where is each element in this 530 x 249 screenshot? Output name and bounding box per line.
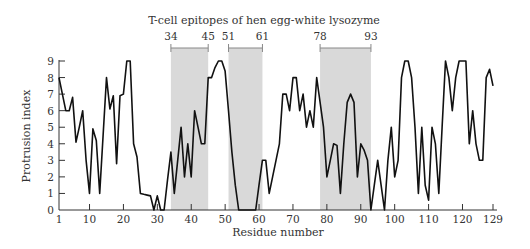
protrusion-line [59,61,493,210]
x-tick-label: 120 [452,213,472,225]
y-tick-label: 0 [47,204,54,216]
x-tick-label: 30 [151,213,164,225]
x-tick-label: 90 [354,213,367,225]
y-axis-title: Protrusion index [20,89,33,183]
epitope-region-51-61 [229,48,263,210]
y-tick-label: 6 [47,105,54,117]
x-tick-label: 40 [185,213,198,225]
x-tick-label: 60 [252,213,265,225]
x-tick-label: 100 [385,213,405,225]
x-tick-label: 70 [286,213,299,225]
y-tick-label: 7 [47,88,54,100]
x-tick-label: 10 [83,213,96,225]
chart-title: T-cell epitopes of hen egg-white lysozym… [148,14,380,27]
y-tick-label: 4 [47,138,54,150]
x-axis-title: Residue number [232,226,324,239]
y-tick-label: 3 [47,154,54,166]
epitope-start-label: 78 [313,30,326,42]
y-tick-label: 8 [47,72,54,84]
x-tick-label: 80 [320,213,333,225]
epitope-end-label: 93 [364,30,377,42]
y-tick-label: 5 [47,121,54,133]
epitope-start-label: 51 [222,30,235,42]
x-tick-label: 1 [56,213,63,225]
y-tick-label: 1 [47,187,54,199]
x-tick-label: 129 [483,213,503,225]
x-tick-label: 110 [419,213,439,225]
protrusion-index-chart: 344551617893 T-cell epitopes of hen egg-… [0,0,530,249]
epitope-end-label: 61 [256,30,269,42]
epitope-end-label: 45 [202,30,215,42]
x-tick-label: 50 [218,213,231,225]
epitope-start-label: 34 [164,30,178,42]
y-tick-label: 2 [47,171,54,183]
epitope-region-34-45 [171,48,208,210]
y-tick-label: 9 [47,55,54,67]
x-tick-label: 20 [117,213,130,225]
